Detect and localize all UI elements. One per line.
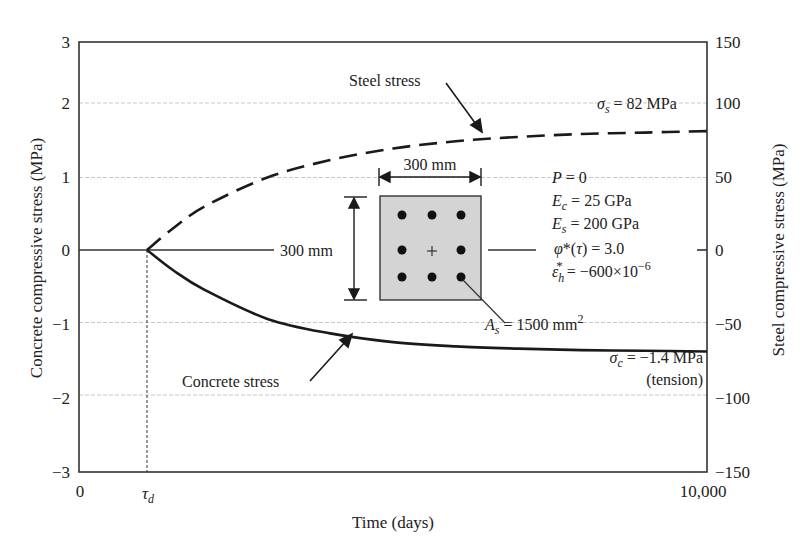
param-es: Es = 200 GPa <box>551 215 639 236</box>
svg-text:150: 150 <box>715 33 741 52</box>
svg-text:−2: −2 <box>52 389 70 408</box>
param-eps: εh* = −600×10−6 <box>552 258 651 285</box>
svg-text:3: 3 <box>62 33 71 52</box>
svg-text:−1: −1 <box>52 315 70 334</box>
steel-stress-arrow <box>446 83 482 132</box>
right-y-axis-title: Steel compressive stress (MPa) <box>769 144 788 357</box>
svg-text:0: 0 <box>715 241 724 260</box>
tau-d-tick: τd <box>142 484 155 506</box>
param-ec: Ec = 25 GPa <box>551 192 632 213</box>
svg-text:−3: −3 <box>52 463 70 482</box>
svg-text:50: 50 <box>715 168 732 187</box>
depth-dimension <box>344 197 367 300</box>
steel-stress-label: Steel stress <box>349 72 421 89</box>
left-y-axis-title: Concrete compressive stress (MPa) <box>27 138 46 378</box>
x-axis-title: Time (days) <box>352 513 434 532</box>
left-y-axis-ticks: 3 2 1 0 −1 −2 −3 <box>52 33 70 482</box>
svg-text:1: 1 <box>62 168 71 187</box>
stress-time-chart: 3 2 1 0 −1 −2 −3 150 100 50 0 −50 −100 −… <box>0 0 805 554</box>
x-axis-ticks: 0 τd 10,000 <box>76 482 727 506</box>
svg-text:−50: −50 <box>715 315 742 334</box>
width-dimension-label: 300 mm <box>404 156 457 173</box>
svg-text:−150: −150 <box>715 463 750 482</box>
svg-text:−100: −100 <box>715 389 750 408</box>
tension-note: (tension) <box>646 371 703 389</box>
svg-text:100: 100 <box>715 94 741 113</box>
param-phi: φ*(τ) = 3.0 <box>554 240 624 258</box>
concrete-stress-arrow <box>310 334 352 381</box>
svg-text:2: 2 <box>62 94 71 113</box>
cross-section-diagram: 300 mm 300 mm As = 1500 mm2 <box>280 156 583 337</box>
steel-area-label: As = 1500 mm2 <box>484 312 583 337</box>
svg-text:0: 0 <box>62 241 71 260</box>
svg-text:0: 0 <box>76 482 85 501</box>
sigma-s-final-label: σs = 82 MPa <box>597 95 677 116</box>
param-p: P = 0 <box>551 169 587 186</box>
right-y-axis-ticks: 150 100 50 0 −50 −100 −150 <box>715 33 750 482</box>
svg-text:10,000: 10,000 <box>680 482 727 501</box>
sigma-c-final-label: σc = −1.4 MPa <box>610 349 704 370</box>
parameters-block: P = 0 Ec = 25 GPa Es = 200 GPa φ*(τ) = 3… <box>551 169 651 285</box>
concrete-stress-label: Concrete stress <box>182 373 279 390</box>
depth-dimension-label: 300 mm <box>280 242 333 259</box>
